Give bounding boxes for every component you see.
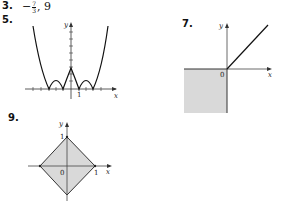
origin-label: 0 <box>220 71 224 79</box>
y-axis-label: y <box>58 120 64 128</box>
y-axis-label: y <box>63 21 69 29</box>
y-axis-label: y <box>218 22 224 30</box>
x-tick-label: 1 <box>94 169 98 177</box>
graph-5: y x 1 <box>25 21 118 100</box>
x-axis-label: x <box>106 168 110 176</box>
graph-7: y x 0 <box>184 22 272 113</box>
y-tick-label: 1 <box>60 133 64 141</box>
origin-label: 0 <box>60 169 64 177</box>
graphs: y x 1 y x 0 y x 0 1 1 <box>0 0 289 201</box>
x-axis-label: x <box>268 71 272 79</box>
tick-label: 1 <box>77 91 81 99</box>
x-axis-label: x <box>114 92 118 100</box>
graph-9: y x 0 1 1 <box>28 120 112 201</box>
